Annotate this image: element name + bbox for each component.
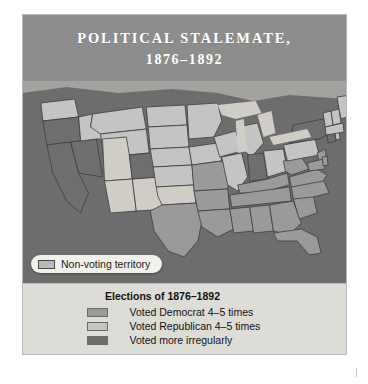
figure-political-stalemate-map: POLITICAL STALEMATE, 1876–1892 .st{strok… [22,14,347,355]
key-row-irregular: Voted more irregularly [87,334,283,346]
key-label-democrat: Voted Democrat 4–5 times [130,306,254,318]
key-row-democrat: Voted Democrat 4–5 times [87,306,283,318]
key-swatch-irregular [87,336,108,345]
state-arizona [104,179,136,213]
state-arkansas [194,189,230,211]
key-swatch-republican [87,322,108,331]
non-voting-territory-label: Non-voting territory [61,258,150,270]
us-choropleth-map: .st{stroke:#3d3d3d;stroke-width:.8;strok… [23,81,346,283]
state-oklahoma [156,185,196,205]
state-kansas [153,165,194,187]
state-delaware [322,156,328,166]
figure-title-line-1: POLITICAL STALEMATE, [77,28,292,49]
map-key: Elections of 1876–1892 Voted Democrat 4–… [23,283,346,354]
map-panel: .st{stroke:#3d3d3d;stroke-width:.8;strok… [23,81,346,283]
key-label-irregular: Voted more irregularly [130,334,233,346]
state-nebraska [150,147,192,167]
state-oregon [43,117,81,145]
key-row-republican: Voted Republican 4–5 times [87,320,283,332]
figure-title-band: POLITICAL STALEMATE, 1876–1892 [23,15,346,81]
state-north-dakota [146,105,187,127]
map-key-title: Elections of 1876–1892 [105,290,264,302]
figure-title-line-2: 1876–1892 [146,49,223,71]
key-swatch-democrat [87,308,108,317]
key-label-republican: Voted Republican 4–5 times [130,320,261,332]
non-voting-territory-swatch [38,260,55,269]
non-voting-territory-legend: Non-voting territory [31,255,162,273]
state-utah [103,137,133,181]
state-south-dakota [148,125,189,149]
page-edge-mark [356,368,357,377]
